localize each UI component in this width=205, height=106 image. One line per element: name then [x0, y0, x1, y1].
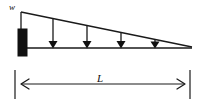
figure-container: w L	[0, 0, 205, 106]
beam-load-diagram: w L	[0, 0, 205, 106]
span-length-label: L	[96, 72, 103, 84]
figure-background	[0, 0, 205, 106]
fixed-support-block	[18, 29, 27, 56]
load-intensity-label: w	[9, 2, 15, 12]
